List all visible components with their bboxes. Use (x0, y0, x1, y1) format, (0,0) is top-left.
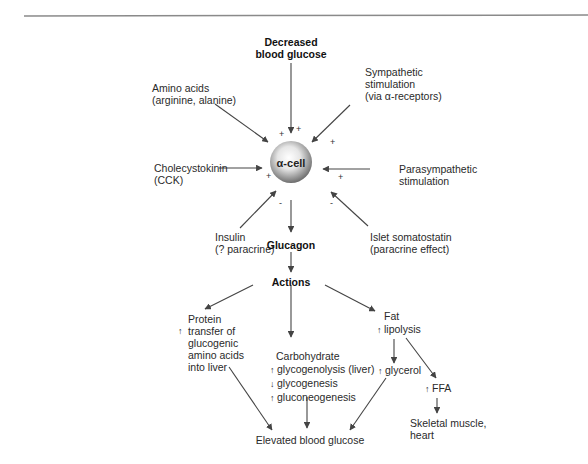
up-arrow-icon: ↑ (425, 383, 432, 395)
carb-item-gluconeogenesis: ↑gluconeogenesis (270, 391, 374, 405)
label-lipolysis: ↑lipolysis (377, 323, 421, 336)
label-line: Cholecystokinin (154, 162, 228, 174)
label-fat: Fat (384, 310, 399, 322)
sign-top-right: + (330, 138, 335, 147)
label-sympathetic: Sympathetic stimulation (via α-receptors… (365, 66, 442, 102)
label-actions: Actions (251, 276, 331, 288)
label-line: glucogenic (188, 337, 244, 349)
label-line: lipolysis (384, 323, 421, 335)
arrow-protein-result (229, 367, 272, 430)
up-arrow-icon: ↑ (178, 325, 185, 337)
sign-bottom-right: - (330, 199, 333, 208)
label-line: stimulation (399, 175, 477, 187)
down-arrow-icon: ↓ (270, 378, 277, 391)
arrow-insulin (240, 191, 276, 228)
arrow-amino-acids (215, 104, 268, 142)
label-line: FFA (432, 382, 451, 394)
label-skeletal-muscle: Skeletal muscle, heart (410, 417, 486, 441)
label-line: (arginine, alanine) (152, 94, 236, 106)
label-somatostatin: Islet somatostatin (paracrine effect) (370, 231, 452, 255)
up-arrow-icon: ↑ (378, 365, 385, 377)
alpha-cell-label: α-cell (261, 157, 321, 169)
label-line: glycogenesis (277, 377, 338, 389)
label-protein: Protein ↑ transfer of glucogenic amino a… (188, 313, 244, 373)
protein-transfer-row: ↑ transfer of (188, 325, 244, 337)
arrow-to-fat (325, 285, 375, 311)
label-line: transfer of (188, 325, 235, 337)
label-line: amino acids (188, 349, 244, 361)
label-line: into liver (188, 361, 244, 373)
label-parasympathetic: Parasympathetic stimulation (399, 163, 477, 187)
label-line: Sympathetic (365, 66, 442, 78)
sign-right: + (338, 173, 343, 182)
label-carbohydrate: Carbohydrate ↑glycogenolysis (liver) ↓gl… (270, 350, 374, 405)
label-line: stimulation (365, 78, 442, 90)
label-line: Islet somatostatin (370, 231, 452, 243)
label-line: Decreased (241, 36, 341, 48)
sign-top-left: + (279, 130, 284, 139)
label-line: heart (410, 429, 486, 441)
carbohydrate-title: Carbohydrate (270, 350, 374, 363)
sign-top: + (296, 125, 301, 134)
arrow-somatostatin (331, 192, 368, 226)
label-line: Protein (188, 313, 244, 325)
top-rule (24, 15, 588, 16)
label-cck: Cholecystokinin (CCK) (154, 162, 228, 186)
label-elevated-glucose: Elevated blood glucose (250, 434, 370, 446)
label-glycerol: ↑glycerol (378, 364, 421, 377)
sign-bottom-left: - (279, 199, 282, 208)
label-decreased-glucose: Decreased blood glucose (241, 36, 341, 60)
up-arrow-icon: ↑ (377, 324, 384, 336)
arrow-to-protein (205, 285, 253, 309)
up-arrow-icon: ↑ (270, 364, 277, 377)
label-line: Parasympathetic (399, 163, 477, 175)
carb-item-glycogenolysis: ↑glycogenolysis (liver) (270, 363, 374, 377)
label-line: (via α-receptors) (365, 90, 442, 102)
label-line: glycogenolysis (liver) (277, 363, 374, 375)
label-line: (CCK) (154, 174, 228, 186)
label-amino-acids: Amino acids (arginine, alanine) (152, 82, 236, 106)
label-line: glycerol (385, 364, 421, 376)
label-line: blood glucose (241, 48, 341, 60)
label-line: Skeletal muscle, (410, 417, 486, 429)
sign-left: + (266, 172, 271, 181)
label-ffa: ↑FFA (425, 382, 451, 395)
label-line: Amino acids (152, 82, 236, 94)
label-glucagon: Glucagon (251, 239, 331, 251)
up-arrow-icon: ↑ (270, 392, 277, 405)
label-line: (paracrine effect) (370, 243, 452, 255)
carb-item-glycogenesis: ↓glycogenesis (270, 377, 374, 391)
label-line: gluconeogenesis (277, 391, 356, 403)
